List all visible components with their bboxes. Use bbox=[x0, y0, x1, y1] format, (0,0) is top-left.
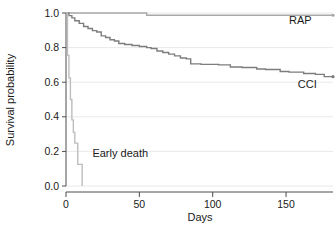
y-axis-title: Survival probability bbox=[4, 53, 16, 146]
y-tick-label: 0.6 bbox=[44, 76, 59, 88]
y-tick-label: 0.0 bbox=[44, 180, 59, 192]
x-tick-label: 150 bbox=[277, 198, 295, 210]
x-tick-label: 100 bbox=[204, 198, 222, 210]
censor-mark bbox=[331, 14, 334, 17]
x-tick-label: 0 bbox=[63, 198, 69, 210]
curve-label-rap: RAP bbox=[289, 14, 312, 26]
survival-curve-figure: 0.00.20.40.60.81.0 050100150 RAPCCIEarly… bbox=[0, 0, 336, 237]
x-axis-title: Days bbox=[187, 211, 213, 223]
curve-label-early-death: Early death bbox=[92, 147, 148, 159]
kaplan-meier-plot: 0.00.20.40.60.81.0 050100150 RAPCCIEarly… bbox=[0, 0, 336, 237]
y-tick-label: 0.4 bbox=[44, 110, 59, 122]
y-tick-label: 1.0 bbox=[44, 7, 59, 19]
x-tick-label: 50 bbox=[134, 198, 146, 210]
y-tick-label: 0.2 bbox=[44, 145, 59, 157]
censor-mark bbox=[331, 75, 334, 78]
y-tick-label: 0.8 bbox=[44, 41, 59, 53]
curve-label-cci: CCI bbox=[298, 78, 317, 90]
